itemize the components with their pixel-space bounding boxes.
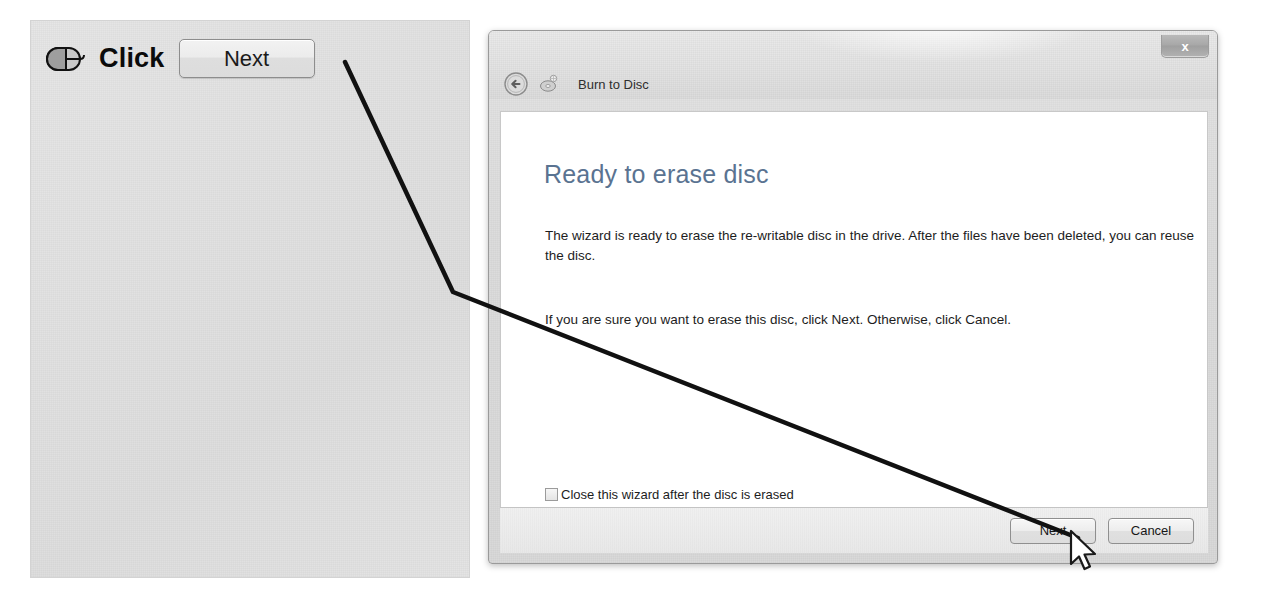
click-instruction-label: Click [99, 45, 165, 72]
cancel-button[interactable]: Cancel [1108, 518, 1194, 544]
page-heading: Ready to erase disc [544, 160, 769, 189]
close-wizard-label: Close this wizard after the disc is eras… [561, 487, 794, 502]
next-button[interactable]: Next [1010, 518, 1096, 544]
mouse-left-click-icon [45, 46, 85, 72]
body-paragraph-secondary: If you are sure you want to erase this d… [545, 310, 1200, 330]
annotation-instruction-row: Click Next [45, 39, 315, 78]
burn-to-disc-dialog: x Burn to Disc Rea [488, 30, 1218, 564]
dialog-content-area: Ready to erase disc The wizard is ready … [500, 111, 1208, 539]
disc-burn-icon [538, 73, 560, 95]
dialog-nav-row: Burn to Disc [503, 71, 649, 97]
back-arrow-icon[interactable] [503, 71, 529, 97]
body-paragraph-primary: The wizard is ready to erase the re-writ… [545, 226, 1200, 265]
dialog-title: Burn to Disc [578, 77, 649, 92]
annotation-panel: Click Next [30, 20, 470, 578]
close-wizard-checkbox-row[interactable]: Close this wizard after the disc is eras… [545, 487, 794, 502]
close-wizard-checkbox[interactable] [545, 488, 558, 501]
dialog-titlebar: x Burn to Disc [489, 31, 1217, 99]
callout-next-button[interactable]: Next [179, 39, 315, 78]
close-icon[interactable]: x [1161, 35, 1209, 58]
dialog-footer: Next Cancel [500, 507, 1208, 553]
